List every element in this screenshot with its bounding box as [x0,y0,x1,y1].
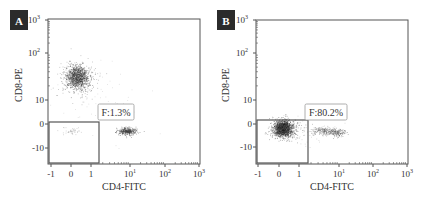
x-tick-label: 0 [69,169,74,179]
plot-frame [256,20,408,164]
y-tick-label: 10 [35,95,45,105]
x-tick-label: 0 [277,169,282,179]
y-axis-ticks: 103102100-10 [236,14,256,152]
gate-region [49,122,99,163]
svg-text:F:1.3%: F:1.3% [101,107,130,118]
panel-letter-text: A [15,15,23,27]
y-tick-label: 103 [28,14,40,25]
y-tick-label: 0 [248,119,253,129]
y-tick-label: 103 [236,14,248,25]
y-tick-label: 102 [28,47,40,58]
y-axis-label: CD8-PE [13,68,24,102]
x-tick-label: 101 [333,168,345,179]
panel-a: A-101101102103103102100-10F:1.3%CD4-FITC… [10,10,205,192]
minor-ticks [256,22,405,164]
y-axis-ticks: 103102100-10 [28,14,48,153]
x-axis-label: CD4-FITC [102,181,146,192]
svg-text:F:80.2%: F:80.2% [309,107,343,118]
x-axis-ticks: -101101102103 [47,164,205,179]
panel-letter-b: B [217,10,235,30]
y-tick-label: 0 [40,119,45,129]
plot-frame [48,19,200,164]
panel-letter-text: B [222,15,230,27]
x-tick-label: 103 [401,168,413,179]
x-tick-label: 1 [89,169,94,179]
x-tick-label: 102 [367,168,379,179]
panel-b: B-101101102103103102100-10F:80.2%CD4-FIT… [217,10,413,192]
y-axis-label: CD8-PE [220,68,231,102]
x-tick-label: 103 [193,168,205,179]
x-tick-label: 102 [159,168,171,179]
y-tick-label: 10 [243,95,253,105]
panel-letter-a: A [10,10,28,30]
y-tick-label: -10 [240,142,252,152]
y-tick-label: 102 [236,47,248,58]
gate-percentage-label: F:80.2% [305,104,347,120]
y-tick-label: -10 [32,143,44,153]
x-axis-label: CD4-FITC [310,181,354,192]
x-tick-label: -1 [47,169,55,179]
x-tick-label: -1 [254,169,262,179]
gate-percentage-label: F:1.3% [98,104,134,120]
x-tick-label: 101 [124,168,136,179]
x-tick-label: 1 [297,169,302,179]
minor-ticks [48,22,197,164]
x-axis-ticks: -101101102103 [254,164,413,179]
scatter-points [46,48,161,149]
figure: A-101101102103103102100-10F:1.3%CD4-FITC… [0,0,425,200]
